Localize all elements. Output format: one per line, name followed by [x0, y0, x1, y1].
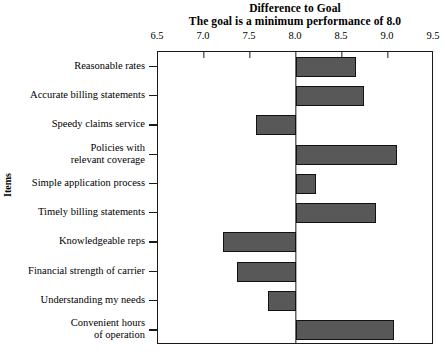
x-axis-tick-labels: 6.57.07.58.08.59.09.5: [157, 30, 433, 44]
plot-inner: [158, 52, 432, 343]
y-axis-tick-mark: [149, 271, 157, 272]
y-axis-tick-mark: [149, 95, 157, 96]
y-axis-tick-mark: [149, 183, 157, 184]
bar: [223, 232, 296, 252]
y-axis-title: Items: [2, 173, 13, 197]
bar: [296, 57, 356, 77]
chart-subtitle: The goal is a minimum performance of 8.0: [157, 15, 433, 28]
y-axis-category-label: Timely billing statements: [38, 206, 145, 218]
x-axis-tick-mark: [249, 52, 250, 58]
bar: [296, 203, 376, 223]
y-axis-category-label: Knowledgeable reps: [59, 235, 145, 247]
x-axis-tick-label: 7.5: [242, 30, 255, 41]
x-axis-tick-label: 7.0: [196, 30, 209, 41]
y-axis-tick-mark: [149, 300, 157, 301]
y-axis-category-label: Simple application process: [32, 177, 145, 189]
chart-title-block: Difference to Goal The goal is a minimum…: [157, 2, 433, 28]
y-axis-category-label: Speedy claims service: [52, 118, 145, 130]
y-axis-category-label: Convenient hours of operation: [71, 317, 145, 341]
y-axis-tick-mark: [149, 154, 157, 155]
x-axis-tick-mark: [203, 52, 204, 58]
y-axis-category-label: Policies with relevant coverage: [71, 142, 145, 166]
x-axis-tick-label: 8.0: [288, 30, 301, 41]
x-axis-tick-label: 6.5: [150, 30, 163, 41]
bar: [296, 86, 364, 106]
y-axis-category-label: Understanding my needs: [41, 294, 145, 306]
y-axis-tick-mark: [149, 212, 157, 213]
bar: [296, 320, 394, 340]
y-axis-tick-mark: [149, 241, 157, 242]
y-axis-category-label: Accurate billing statements: [30, 89, 145, 101]
bar: [296, 174, 316, 194]
x-axis-tick-label: 8.5: [334, 30, 347, 41]
x-axis-tick-mark: [387, 52, 388, 58]
y-axis-tick-mark: [149, 329, 157, 330]
y-axis-category-label: Financial strength of carrier: [28, 265, 145, 277]
y-axis-tick-mark: [149, 66, 157, 67]
bar: [237, 262, 296, 282]
plot-area: [157, 51, 433, 344]
x-axis-tick-label: 9.5: [426, 30, 439, 41]
bar: [296, 145, 397, 165]
bar: [256, 115, 296, 135]
difference-to-goal-chart: Difference to Goal The goal is a minimum…: [0, 0, 445, 358]
chart-title: Difference to Goal: [157, 2, 433, 15]
x-axis-tick-label: 9.0: [380, 30, 393, 41]
y-axis-category-label: Reasonable rates: [74, 60, 145, 72]
y-axis-tick-mark: [149, 124, 157, 125]
bar: [268, 291, 296, 311]
